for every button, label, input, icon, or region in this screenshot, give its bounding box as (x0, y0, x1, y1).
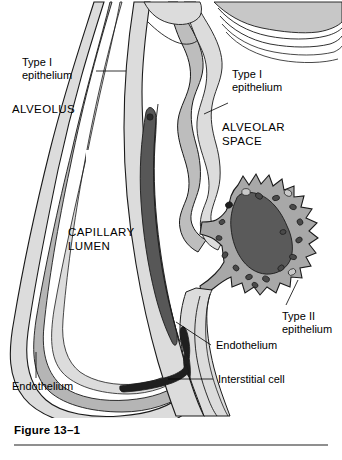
alveolus-diagram: Type I epithelium ALVEOLUS Type I epithe… (0, 0, 342, 460)
label-type-i-right-line1: Type I (232, 68, 262, 80)
label-alveolus: ALVEOLUS (12, 103, 75, 115)
endothelial-nucleus (147, 114, 153, 120)
caption-divider (14, 444, 328, 446)
label-type-i-left-line1: Type I (22, 56, 52, 68)
label-alveolar-space-line1: ALVEOLAR (222, 121, 285, 133)
figure-caption: Figure 13–1 (14, 424, 80, 436)
label-endothelium-left: Endothelium (12, 380, 73, 392)
label-type-i-left-line2: epithelium (22, 69, 72, 81)
label-capillary-lumen-line1: CAPILLARY (68, 226, 135, 238)
label-capillary-lumen-line2: LUMEN (68, 240, 110, 252)
label-endothelium-right: Endothelium (216, 339, 277, 351)
label-type-ii-line1: Type II (282, 310, 315, 322)
label-interstitial-cell: Interstitial cell (218, 373, 285, 385)
label-type-i-right-line2: epithelium (232, 81, 282, 93)
upper-right-septum (144, 2, 342, 63)
label-type-ii-line2: epithelium (282, 323, 332, 335)
figure-root: Type I epithelium ALVEOLUS Type I epithe… (0, 0, 342, 460)
label-alveolar-space-line2: SPACE (222, 135, 262, 147)
type-i-epithelium-layer (168, 2, 224, 252)
